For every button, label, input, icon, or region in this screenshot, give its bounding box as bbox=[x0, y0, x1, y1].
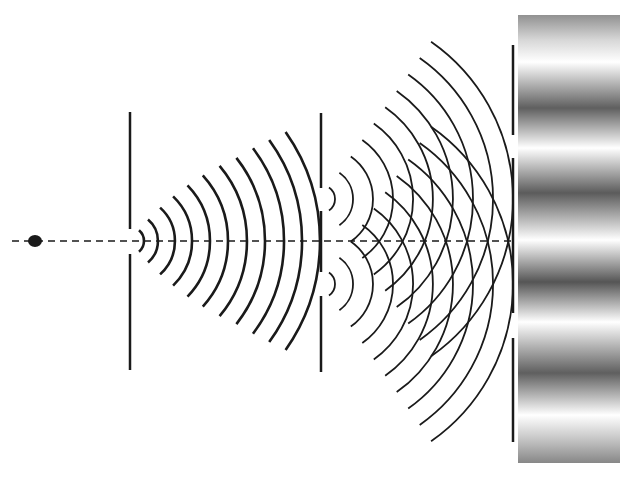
wavefront-arc bbox=[431, 127, 513, 442]
wavefront-arc bbox=[351, 241, 373, 326]
wavefront-arc bbox=[269, 140, 302, 342]
double-slit-diagram bbox=[0, 0, 628, 484]
wavefront-arc bbox=[351, 156, 373, 241]
interference-screen bbox=[518, 15, 620, 463]
wavefront-arc bbox=[329, 273, 335, 296]
fringe-pattern bbox=[518, 15, 620, 463]
wavefront-arc bbox=[339, 173, 353, 225]
wavefront-arc bbox=[420, 58, 493, 340]
wavefront-arc bbox=[408, 160, 473, 409]
source-dot bbox=[28, 235, 42, 247]
wavefront-arc bbox=[420, 143, 493, 425]
wavefront-arc bbox=[339, 258, 353, 310]
wavefront-arc bbox=[329, 188, 335, 211]
light-source bbox=[28, 235, 42, 247]
wavefront-arc bbox=[397, 91, 453, 307]
wavefront-arc bbox=[408, 75, 473, 324]
wavefront-arc bbox=[139, 230, 144, 251]
wavefront-arc bbox=[431, 42, 513, 357]
wavefront-arc bbox=[397, 176, 453, 392]
